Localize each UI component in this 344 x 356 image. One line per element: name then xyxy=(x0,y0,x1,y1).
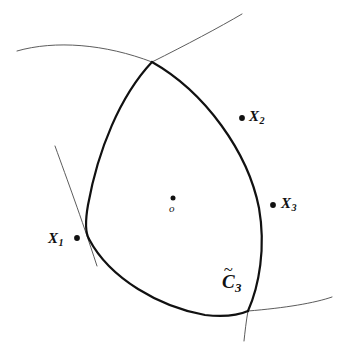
label-x3-subscript: 3 xyxy=(291,202,296,213)
thin-arc-bottom-descending-icon xyxy=(244,311,248,341)
label-region-c3: ~C3 xyxy=(222,272,242,291)
thin-arc-upper-left-icon xyxy=(17,45,152,62)
label-region-subscript: 3 xyxy=(235,280,242,295)
thin-arc-left-descending-icon xyxy=(55,146,97,266)
thin-arc-bottom-right-icon xyxy=(248,297,332,311)
label-x1-subscript: 1 xyxy=(58,237,63,248)
arc-right-boundary xyxy=(152,62,262,311)
label-x2-base: X xyxy=(249,108,259,124)
center-point xyxy=(171,196,176,201)
x2-point xyxy=(239,115,245,121)
figure-canvas xyxy=(0,0,344,356)
tilde-accent-icon: ~ xyxy=(224,262,233,279)
thin-arcs-group xyxy=(17,14,332,341)
label-x3: X3 xyxy=(281,196,297,211)
label-x1: X1 xyxy=(48,231,64,246)
points-group xyxy=(74,115,276,241)
x1-point xyxy=(74,235,80,241)
label-region-accented-letter: ~C xyxy=(222,272,235,291)
label-center-o: o xyxy=(169,203,175,214)
label-x1-base: X xyxy=(48,230,58,246)
x3-point xyxy=(270,202,276,208)
label-x3-base: X xyxy=(281,195,291,211)
label-center-base: o xyxy=(169,202,175,214)
geometry-figure: X1 X2 X3 o ~C3 xyxy=(0,0,344,356)
label-x2-subscript: 2 xyxy=(259,115,264,126)
arc-left-boundary xyxy=(86,62,152,239)
label-x2: X2 xyxy=(249,109,265,124)
thin-arc-upper-right-icon xyxy=(152,14,242,62)
